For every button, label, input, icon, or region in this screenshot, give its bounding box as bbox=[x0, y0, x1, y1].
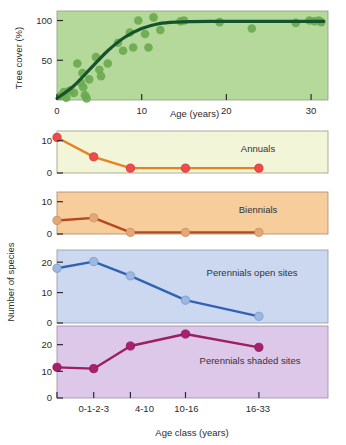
y-tick-label: 0 bbox=[47, 167, 52, 178]
scatter-point bbox=[149, 13, 158, 22]
scatter-point bbox=[79, 83, 88, 92]
series-point bbox=[90, 257, 98, 265]
perennials-shaded-panel-label: Perennials shaded sites bbox=[200, 355, 301, 366]
series-point bbox=[126, 164, 134, 172]
scatter-point bbox=[119, 46, 128, 55]
panel-annuals: 010 Annuals bbox=[41, 131, 328, 178]
x-tick-label: 10-16 bbox=[174, 403, 198, 414]
y-tick-label: 10 bbox=[41, 135, 52, 146]
scatter-point bbox=[129, 43, 138, 52]
x-tick-label: 0 bbox=[54, 105, 59, 116]
panel-annuals-background bbox=[57, 131, 328, 173]
y-tick-label: 100 bbox=[36, 15, 52, 26]
tree-cover-x-axis-label: Age (years) bbox=[170, 108, 219, 119]
series-point bbox=[53, 264, 61, 272]
series-point bbox=[53, 216, 61, 224]
tree-cover-y-axis-label: Tree cover (%) bbox=[13, 27, 24, 89]
y-tick-label: 0 bbox=[47, 317, 52, 328]
series-point bbox=[181, 228, 189, 236]
series-point bbox=[126, 272, 134, 280]
scatter-point bbox=[156, 26, 165, 35]
x-tick-label: 20 bbox=[221, 105, 232, 116]
panel-biennials-background bbox=[57, 192, 328, 234]
series-point bbox=[53, 363, 61, 371]
series-point bbox=[90, 214, 98, 222]
series-point bbox=[255, 343, 263, 351]
scatter-point bbox=[73, 59, 82, 68]
series-point bbox=[90, 365, 98, 373]
perennials-open-panel-label: Perennials open sites bbox=[207, 267, 298, 278]
number-of-species-axis-label: Number of species bbox=[5, 242, 16, 321]
series-point bbox=[255, 312, 263, 320]
y-tick-label: 20 bbox=[41, 339, 52, 350]
y-tick-label: 10 bbox=[41, 366, 52, 377]
biennials-panel-label: Biennials bbox=[239, 204, 278, 215]
age-class-x-axis-label: Age class (years) bbox=[155, 427, 228, 438]
scatter-point bbox=[247, 24, 256, 33]
y-tick-label: 10 bbox=[41, 287, 52, 298]
figure-canvas: 50100 0102030 Tree cover (%) Age (years)… bbox=[0, 0, 346, 445]
series-point bbox=[181, 164, 189, 172]
series-point bbox=[126, 342, 134, 350]
series-point bbox=[181, 330, 189, 338]
x-tick-label: 30 bbox=[306, 105, 317, 116]
y-tick-label: 10 bbox=[41, 196, 52, 207]
figure-root: 50100 0102030 Tree cover (%) Age (years)… bbox=[0, 0, 346, 445]
series-point bbox=[126, 228, 134, 236]
y-tick-label: 20 bbox=[41, 257, 52, 268]
annuals-panel-label: Annuals bbox=[241, 143, 276, 154]
y-tick-label: 0 bbox=[47, 392, 52, 403]
series-point bbox=[181, 296, 189, 304]
panel-perennials-open-sites: 01020 Perennials open sites bbox=[41, 250, 328, 328]
scatter-point bbox=[104, 59, 113, 68]
scatter-point bbox=[141, 30, 150, 39]
x-tick-label: 0-1-2-3 bbox=[78, 403, 109, 414]
y-tick-label: 50 bbox=[41, 55, 52, 66]
scatter-point bbox=[144, 43, 153, 52]
series-point bbox=[255, 228, 263, 236]
series-point bbox=[255, 164, 263, 172]
series-point bbox=[90, 153, 98, 161]
scatter-point bbox=[97, 72, 106, 81]
scatter-point bbox=[85, 75, 94, 84]
panel-biennials: 010 Biennials bbox=[41, 192, 328, 239]
x-tick-label: 16-33 bbox=[246, 403, 270, 414]
panel-tree-cover: 50100 0102030 Tree cover (%) Age (years) bbox=[13, 11, 328, 119]
scatter-point bbox=[82, 94, 91, 103]
panel-perennials-shaded-sites: 01020 0-1-2-34-1010-1616-33 Perennials s… bbox=[41, 326, 328, 438]
x-tick-label: 10 bbox=[136, 105, 147, 116]
x-tick-label: 4-10 bbox=[135, 403, 154, 414]
y-tick-label: 0 bbox=[47, 228, 52, 239]
scatter-point bbox=[134, 16, 143, 25]
